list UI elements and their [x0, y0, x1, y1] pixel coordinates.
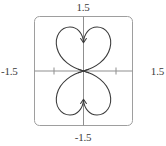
- graph-figure: 1.5 -1.5 1.5 -1.5: [0, 0, 166, 146]
- curve-lower-left-lobe: [56, 71, 83, 115]
- curve-lower-right-lobe: [84, 71, 111, 115]
- curve-upper-left-lobe: [56, 27, 83, 71]
- curve-upper-right-lobe: [84, 27, 111, 71]
- plot-canvas: [0, 0, 166, 146]
